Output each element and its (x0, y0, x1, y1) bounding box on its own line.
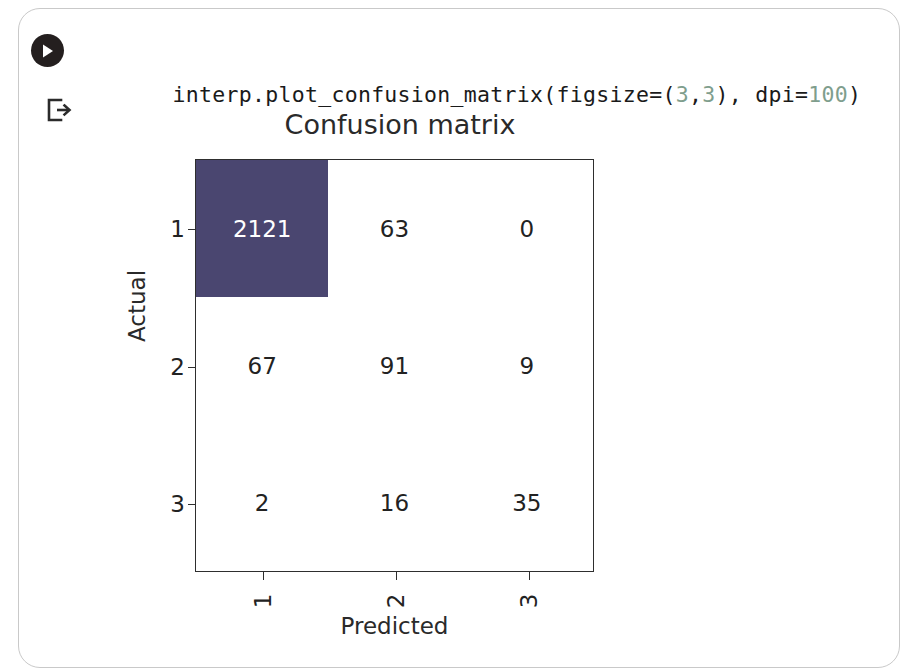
code-line[interactable]: interp.plot_confusion_matrix(figsize=(3,… (93, 29, 861, 73)
y-tick-label: 2 (145, 354, 185, 380)
x-tick-mark (396, 571, 397, 580)
matrix-cell: 16 (328, 434, 460, 571)
y-tick-mark (188, 367, 196, 368)
matrix-cell: 2121 (196, 160, 328, 297)
output-arrow-icon (41, 93, 75, 127)
code-token-number: 3 (676, 82, 689, 107)
x-tick-mark (529, 571, 530, 580)
y-tick-label: 1 (145, 216, 185, 242)
code-token-number: 3 (702, 82, 715, 107)
matrix-cell: 67 (196, 297, 328, 434)
code-token: ), dpi= (716, 82, 809, 107)
x-tick-label: 1 (250, 594, 276, 609)
matrix-cell: 2 (196, 434, 328, 571)
x-tick-mark (263, 571, 264, 580)
play-circle-icon[interactable] (31, 34, 64, 67)
code-token: , (689, 82, 702, 107)
matrix-cell: 0 (461, 160, 593, 297)
heatmap-grid: 2121 63 0 67 91 9 2 16 35 (196, 160, 593, 571)
matrix-cell: 91 (328, 297, 460, 434)
code-token: ) (848, 82, 861, 107)
notebook-cell-card: interp.plot_confusion_matrix(figsize=(3,… (18, 8, 900, 668)
x-axis-label: Predicted (195, 613, 594, 639)
chart-title: Confusion matrix (195, 109, 605, 140)
x-tick-label: 2 (383, 594, 409, 609)
y-tick-mark (188, 504, 196, 505)
code-input-row: interp.plot_confusion_matrix(figsize=(3,… (19, 29, 899, 73)
code-token-number: 100 (808, 82, 848, 107)
y-axis-label: Actual (124, 236, 150, 376)
matrix-cell: 63 (328, 160, 460, 297)
y-tick-label: 3 (145, 491, 185, 517)
plot-axes: 2121 63 0 67 91 9 2 16 35 1 2 3 1 2 (195, 159, 594, 572)
x-tick-label: 3 (516, 594, 542, 609)
matrix-cell: 9 (461, 297, 593, 434)
confusion-matrix-figure: Confusion matrix 2121 63 0 67 91 9 2 16 … (99, 95, 659, 655)
y-tick-mark (188, 229, 196, 230)
matrix-cell: 35 (461, 434, 593, 571)
